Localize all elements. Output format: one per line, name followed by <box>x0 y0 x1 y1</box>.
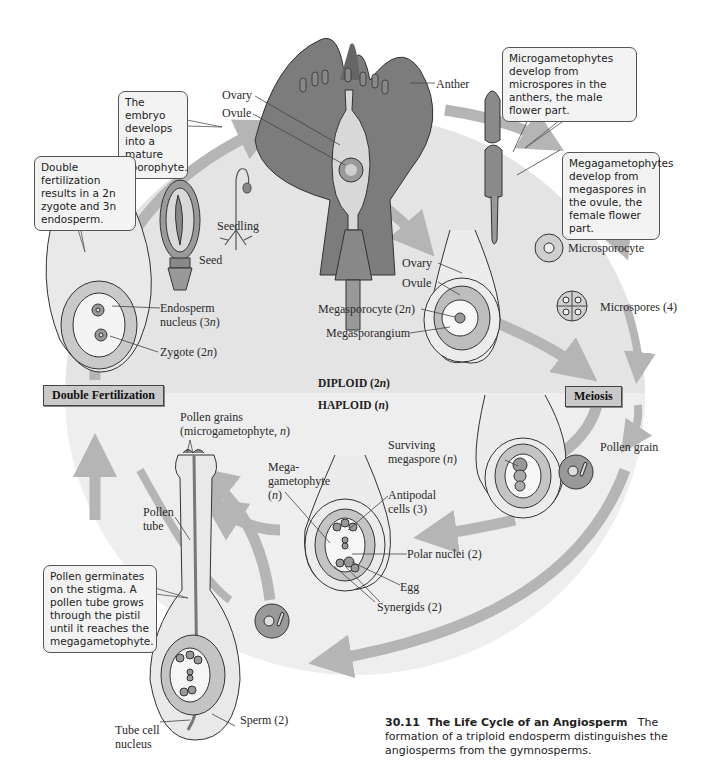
pollen-grain-right <box>559 455 593 489</box>
label-anther: Anther <box>436 77 469 91</box>
label-pollen-grains-line2: (microgametophyte, n) <box>180 424 290 438</box>
label-flower-ovule: Ovule <box>222 106 251 120</box>
label-antipodal-cells: Antipodal cells (3) <box>388 488 436 516</box>
stage-meiosis: Meiosis <box>565 386 622 407</box>
label-mega-line2: gametophyte <box>268 474 330 488</box>
label-sperm: Sperm (2) <box>240 713 288 727</box>
label-microsporocyte: Microsporocyte <box>568 241 644 255</box>
microsporocyte <box>535 234 563 262</box>
figure-number: 30.11 <box>385 716 420 729</box>
label-pollen-tube-line2: tube <box>143 519 164 533</box>
label-endosperm-line1: Endosperm <box>160 301 215 315</box>
label-megasporocyte: Megasporocyte (2n) <box>318 302 415 316</box>
label-zygote: Zygote (2n) <box>160 345 217 359</box>
label-ovary: Ovary <box>402 256 432 270</box>
figure-title: The Life Cycle of an Angiosperm <box>427 716 627 729</box>
label-egg: Egg <box>400 580 419 594</box>
label-tube-cell-nucleus: Tube cell nucleus <box>115 723 160 751</box>
label-pollen-grain: Pollen grain <box>600 440 658 454</box>
label-surviving-line1: Surviving <box>388 438 435 452</box>
label-tube-cell-line1: Tube cell <box>115 723 160 737</box>
fertilized-ovule <box>46 210 151 372</box>
callout-pollen-germination: Pollen germinates on the stigma. A polle… <box>43 565 157 653</box>
label-antipodal-line1: Antipodal <box>388 488 436 502</box>
ploidy-haploid-label: HAPLOID (n) <box>318 399 389 411</box>
label-ovule: Ovule <box>402 276 431 290</box>
label-synergids: Synergids (2) <box>377 600 442 614</box>
label-endosperm-nucleus: Endosperm nucleus (3n) <box>160 301 220 329</box>
microspores <box>557 291 587 321</box>
label-pollen-tube-line1: Pollen <box>143 505 174 519</box>
label-megagametophyte: Mega- gametophyte (n) <box>268 460 330 502</box>
label-polar-nuclei: Polar nuclei (2) <box>407 547 482 561</box>
ploidy-diploid-label: DIPLOID (2n) <box>318 377 390 389</box>
callout-microgametophytes: Microgametophytes develop from microspor… <box>502 47 637 122</box>
label-pollen-tube: Pollen tube <box>143 505 174 533</box>
label-mega-line1: Mega- <box>268 460 299 474</box>
figure-caption: 30.11 The Life Cycle of an Angiosperm Th… <box>385 716 705 758</box>
label-pollen-grains-line1: Pollen grains <box>180 410 243 424</box>
label-tube-cell-line2: nucleus <box>115 737 152 751</box>
label-surviving-megaspore: Surviving megaspore (n) <box>388 438 457 466</box>
label-surviving-line2: megaspore (n) <box>388 452 457 466</box>
callout-double-fertilization: Double fertilization results in a 2n zyg… <box>34 156 136 231</box>
label-mega-line3: (n) <box>268 488 282 502</box>
label-pollen-grains: Pollen grains (microgametophyte, n) <box>180 410 290 438</box>
label-megasporangium: Megasporangium <box>326 326 410 340</box>
stage-double-fertilization: Double Fertilization <box>43 385 164 406</box>
label-antipodal-line2: cells (3) <box>388 502 427 516</box>
label-seed: Seed <box>199 253 222 267</box>
angiosperm-life-cycle-figure: Ovary Ovule Anther Seedling Seed Endospe… <box>0 0 710 773</box>
pollen-grain-bottom <box>255 604 289 638</box>
callout-megagametophytes: Megagametophytes develop from megaspores… <box>562 152 660 240</box>
label-endosperm-line2: nucleus (3n) <box>160 315 220 329</box>
label-microspores: Microspores (4) <box>600 300 677 314</box>
label-flower-ovary: Ovary <box>222 88 252 102</box>
label-seedling: Seedling <box>217 219 259 233</box>
